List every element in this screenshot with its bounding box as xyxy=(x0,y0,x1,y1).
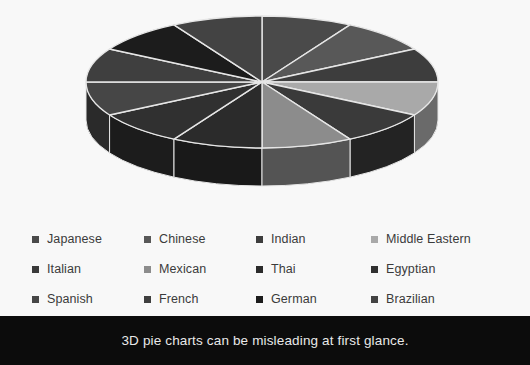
chart-legend: Japanese Chinese Indian Middle Eastern I… xyxy=(0,224,530,314)
legend-item-label: Italian xyxy=(47,263,81,276)
legend-swatch-icon xyxy=(32,296,39,303)
legend-row: Spanish French German Brazilian xyxy=(24,284,506,314)
legend-item-german[interactable]: German xyxy=(250,293,365,306)
legend-item-japanese[interactable]: Japanese xyxy=(24,233,138,246)
legend-swatch-icon xyxy=(371,266,378,273)
legend-swatch-icon xyxy=(144,236,151,243)
legend-item-brazilian[interactable]: Brazilian xyxy=(365,293,505,306)
legend-item-label: Spanish xyxy=(47,293,93,306)
legend-swatch-icon xyxy=(256,266,263,273)
legend-item-label: Chinese xyxy=(159,233,206,246)
caption-bar: 3D pie charts can be misleading at first… xyxy=(0,316,530,365)
legend-item-label: Thai xyxy=(271,263,296,276)
legend-item-mexican[interactable]: Mexican xyxy=(138,263,250,276)
legend-item-middle-eastern[interactable]: Middle Eastern xyxy=(365,233,505,246)
legend-row: Italian Mexican Thai Egyptian xyxy=(24,254,506,284)
legend-item-label: German xyxy=(271,293,317,306)
legend-item-indian[interactable]: Indian xyxy=(250,233,365,246)
legend-item-thai[interactable]: Thai xyxy=(250,263,365,276)
legend-item-chinese[interactable]: Chinese xyxy=(138,233,250,246)
pie-top-face-group xyxy=(86,16,438,148)
pie-chart-3d xyxy=(0,0,530,216)
caption-text: 3D pie charts can be misleading at first… xyxy=(121,333,408,348)
legend-item-italian[interactable]: Italian xyxy=(24,263,138,276)
legend-item-french[interactable]: French xyxy=(138,293,250,306)
legend-swatch-icon xyxy=(256,296,263,303)
legend-item-spanish[interactable]: Spanish xyxy=(24,293,138,306)
legend-item-label: Brazilian xyxy=(386,293,435,306)
legend-swatch-icon xyxy=(371,236,378,243)
legend-item-label: Japanese xyxy=(47,233,102,246)
legend-item-label: Indian xyxy=(271,233,306,246)
legend-item-label: Egyptian xyxy=(386,263,435,276)
legend-item-label: French xyxy=(159,293,199,306)
legend-swatch-icon xyxy=(32,236,39,243)
legend-swatch-icon xyxy=(144,296,151,303)
chart-area xyxy=(0,0,530,216)
legend-swatch-icon xyxy=(32,266,39,273)
pie-chart-slide: Japanese Chinese Indian Middle Eastern I… xyxy=(0,0,530,365)
legend-swatch-icon xyxy=(371,296,378,303)
legend-item-label: Middle Eastern xyxy=(386,233,471,246)
legend-row: Japanese Chinese Indian Middle Eastern xyxy=(24,224,506,254)
legend-item-egyptian[interactable]: Egyptian xyxy=(365,263,505,276)
legend-swatch-icon xyxy=(144,266,151,273)
legend-swatch-icon xyxy=(256,236,263,243)
legend-item-label: Mexican xyxy=(159,263,206,276)
